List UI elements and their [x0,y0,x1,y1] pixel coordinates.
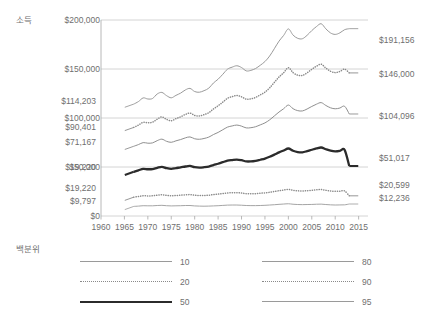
series-line-10 [134,204,349,207]
series-start-label-80: $71,167 [65,137,96,147]
series-start-label-90: $90,401 [65,122,96,132]
legend-swatch-50 [80,301,172,306]
leader-start-80 [125,146,134,149]
series-end-label-20: $20,599 [379,180,410,190]
legend-swatch-90 [262,281,354,285]
series-start-label-95: $114,203 [61,96,96,106]
series-start-label-10: $9,797 [70,196,96,206]
legend-label-10: 10 [180,255,189,269]
legend-item-90[interactable]: 90 [262,275,402,289]
series-end-label-80: $104,096 [379,111,414,121]
legend-item-80[interactable]: 80 [262,255,402,269]
leader-start-10 [125,206,134,209]
leader-start-95 [125,104,134,107]
legend-label-80: 80 [362,255,371,269]
legend-label-90: 90 [362,275,371,289]
legend-label-20: 20 [180,275,189,289]
legend-item-50[interactable]: 50 [80,295,220,309]
x-axis-tick-label: 1965 [115,222,134,232]
series-end-label-95: $191,156 [379,35,414,45]
x-axis-tick-label: 2000 [279,222,298,232]
leader-start-20 [125,197,134,200]
legend-item-10[interactable]: 10 [80,255,220,269]
series-start-label-50: $19,220 [65,162,96,172]
x-axis-tick-label: 2010 [326,222,345,232]
legend-label-95: 95 [362,295,371,309]
series-line-95 [134,24,349,104]
legend-swatch-10 [80,261,172,265]
legend-swatch-95 [262,301,354,305]
series-start-label-20: $19,220 [65,183,96,193]
legend-title: 백분위 [16,242,40,254]
series-line-50 [134,147,349,171]
plot-area [0,0,436,240]
legend-swatch-20 [80,281,172,285]
x-axis-tick-label: 1980 [185,222,204,232]
x-axis-tick-label: 1995 [255,222,274,232]
legend: 102050809095 [0,255,436,315]
series-line-20 [134,189,349,197]
series-end-label-10: $12,236 [379,193,410,203]
x-axis-tick-label: 1985 [209,222,228,232]
legend-swatch-80 [262,261,354,265]
leader-start-50 [125,172,134,175]
legend-item-95[interactable]: 95 [262,295,402,309]
x-axis-tick-label: 1970 [138,222,157,232]
legend-label-50: 50 [180,295,189,309]
series-end-label-50: $51,017 [379,153,410,163]
series-end-label-90: $146,000 [379,69,414,79]
x-axis-tick-label: 1975 [162,222,181,232]
x-axis-tick-labels: 1960196519701975198019851990199520002005… [0,222,436,236]
x-axis-tick-label: 1990 [232,222,251,232]
series-line-80 [134,103,349,147]
chart-figure: 소득 $0$50,000$100,000$150,000$200,000 $11… [0,0,436,317]
x-axis-tick-label: 2005 [302,222,321,232]
legend-item-20[interactable]: 20 [80,275,220,289]
x-axis-tick-label: 1960 [92,222,111,232]
leader-start-90 [125,127,134,130]
x-axis-tick-label: 2015 [349,222,368,232]
